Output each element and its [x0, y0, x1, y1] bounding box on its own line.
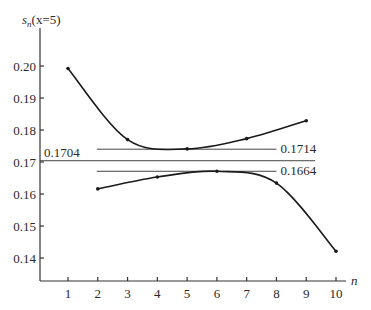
lower-curve [98, 171, 336, 251]
series-curves [66, 67, 338, 253]
reference-label: 0.1714 [280, 141, 316, 156]
data-point [96, 187, 100, 191]
x-tick-label: 8 [273, 286, 280, 301]
y-axis-label: sn(x=5) [22, 12, 61, 29]
x-tick-label: 6 [214, 286, 221, 301]
data-point [126, 138, 130, 142]
x-tick-label: 9 [303, 286, 310, 301]
x-tick-label: 7 [243, 286, 250, 301]
x-axis-label: n [351, 273, 358, 288]
y-tick-label: 0.19 [13, 91, 36, 106]
reference-label: 0.1664 [280, 163, 316, 178]
x-tick-label: 10 [330, 286, 343, 301]
y-tick-label: 0.14 [13, 251, 36, 266]
data-point [334, 249, 338, 253]
y-tick-label: 0.15 [13, 219, 36, 234]
x-tick-label: 1 [65, 286, 72, 301]
y-tick-label: 0.17 [13, 155, 36, 170]
x-tick-label: 2 [95, 286, 102, 301]
x-tick-label: 3 [124, 286, 131, 301]
labels: 0.200.190.180.170.160.150.1412345678910n… [13, 12, 357, 301]
x-tick-label: 4 [154, 286, 161, 301]
chart: 0.200.190.180.170.160.150.1412345678910n… [0, 0, 371, 310]
data-point [304, 119, 308, 123]
x-tick-label: 5 [184, 286, 191, 301]
y-tick-label: 0.16 [13, 187, 36, 202]
data-point [275, 181, 279, 185]
reference-label: 0.1704 [44, 145, 80, 160]
y-tick-label: 0.20 [13, 59, 36, 74]
data-point [66, 67, 70, 71]
data-point [156, 175, 160, 179]
upper-curve [68, 69, 306, 150]
data-point [245, 137, 249, 141]
y-tick-label: 0.18 [13, 123, 36, 138]
reference-lines [40, 149, 315, 171]
data-point [185, 147, 189, 151]
data-point [215, 169, 219, 173]
